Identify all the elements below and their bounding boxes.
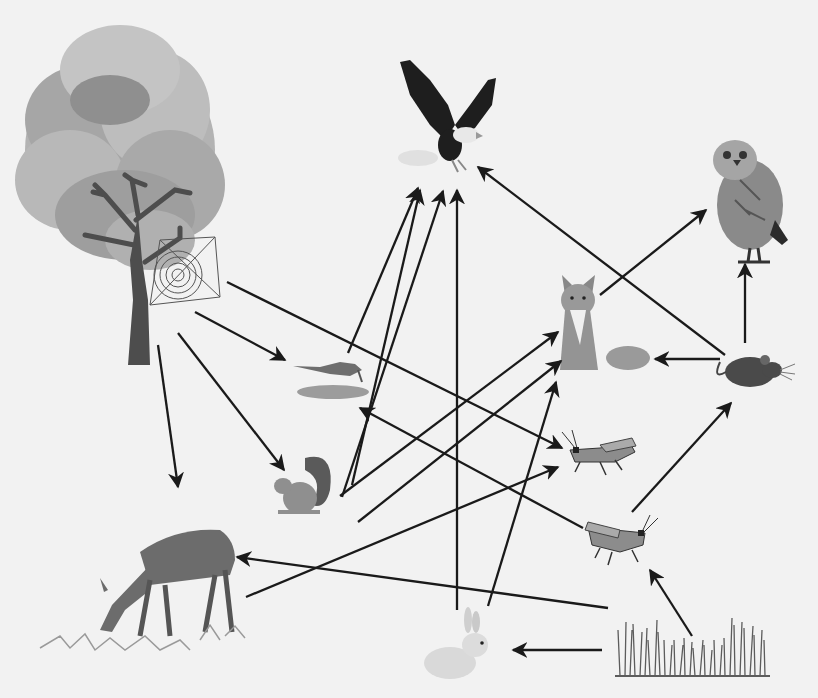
grasshopper-icon bbox=[562, 430, 636, 475]
mouse-icon bbox=[717, 355, 795, 387]
deer-icon bbox=[40, 530, 245, 650]
grasshopper-icon bbox=[585, 515, 658, 565]
arrow-grasshopper2-to-bird bbox=[360, 408, 583, 528]
arrow-squirrel-to-eagle bbox=[342, 191, 443, 497]
arrow-mouse-to-eagle bbox=[478, 167, 725, 355]
arrow-squirrel-to-eagle bbox=[352, 190, 420, 485]
owl-icon bbox=[713, 140, 788, 262]
arrow-grasshopper2-to-mouse bbox=[632, 403, 731, 512]
tree-icon bbox=[15, 25, 225, 365]
arrow-squirrel-to-fox bbox=[358, 361, 561, 522]
bird-icon bbox=[293, 362, 369, 399]
arrow-tree-to-squirrel bbox=[178, 333, 284, 470]
food-web-diagram: TreeSpider webEagleOwlFoxMouseBirdSquirr… bbox=[0, 0, 818, 698]
arrow-bird-to-eagle bbox=[348, 188, 418, 353]
squirrel-icon bbox=[274, 457, 331, 514]
rabbit-icon bbox=[424, 607, 488, 679]
arrow-tree-to-bird bbox=[195, 312, 285, 360]
fox-icon bbox=[560, 275, 650, 370]
eagle-icon bbox=[398, 60, 496, 172]
grass-icon bbox=[615, 618, 770, 676]
arrow-layer bbox=[158, 167, 745, 650]
arrow-grass-to-deer bbox=[237, 557, 608, 608]
food-web-canvas bbox=[0, 0, 818, 698]
arrow-tree-to-deer bbox=[158, 345, 178, 487]
arrow-fox-to-owl bbox=[600, 210, 706, 295]
arrow-tree-to-grasshopper1 bbox=[227, 282, 562, 448]
